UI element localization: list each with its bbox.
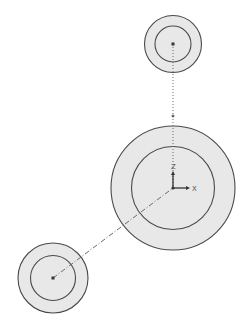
sketch-canvas[interactable]: X Z (0, 0, 249, 333)
center-point-top[interactable] (172, 43, 175, 46)
midpoint-marker[interactable] (171, 114, 175, 118)
z-axis-label: Z (171, 163, 176, 171)
x-axis-label: X (192, 185, 197, 193)
center-point-bottom-left[interactable] (52, 277, 55, 280)
origin-point[interactable] (171, 186, 174, 189)
circles-layer (18, 16, 235, 314)
